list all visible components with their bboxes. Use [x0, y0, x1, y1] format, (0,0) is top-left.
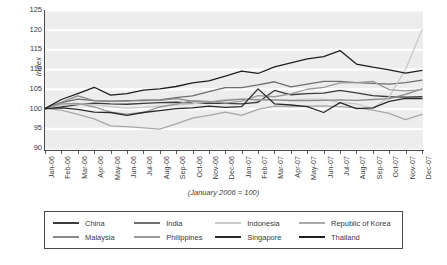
legend-swatch-icon: [53, 236, 79, 239]
x-axis-tick-mark: [422, 151, 423, 154]
x-axis-tick-mark: [193, 151, 194, 154]
x-axis-tick: Aug-07: [359, 156, 366, 179]
x-axis-tick: Sep-06: [179, 156, 186, 179]
legend-item[interactable]: Malaysia: [53, 233, 134, 242]
y-axis-tick: 110: [30, 65, 42, 73]
legend-label: Philippines: [166, 233, 202, 242]
legend-item[interactable]: Philippines: [134, 233, 215, 242]
x-axis-tick-mark: [406, 151, 407, 154]
legend-swatch-icon: [215, 222, 241, 225]
x-axis-tick: Jun-06: [130, 156, 137, 178]
x-axis-tick-mark: [61, 151, 62, 154]
legend-label: Malaysia: [85, 233, 115, 242]
index-line-chart: Index 9095100105110115120125 Jan-06Feb-0…: [0, 0, 447, 205]
x-axis-tick-mark: [356, 151, 357, 154]
x-axis-tick: May-06: [114, 156, 121, 180]
y-axis-tick: 100: [29, 105, 42, 113]
y-axis-tick: 125: [29, 6, 42, 14]
x-axis-tick-mark: [45, 151, 46, 154]
x-axis-tick: Aug-06: [163, 156, 170, 179]
legend-label: Indonesia: [247, 219, 280, 228]
x-axis-tick: Oct-07: [392, 156, 399, 178]
plot-area: [45, 10, 423, 149]
chart-screenshot: Index 9095100105110115120125 Jan-06Feb-0…: [0, 0, 447, 265]
legend-item[interactable]: Singapore: [215, 233, 299, 242]
x-axis-tick: Jan-06: [48, 156, 55, 178]
x-axis-tick: Feb-06: [64, 156, 71, 179]
x-axis-tick: Dec-07: [425, 156, 432, 179]
legend-row: ChinaIndiaIndonesiaRepublic of Korea: [53, 216, 396, 230]
x-axis-tick: Jul-07: [343, 156, 350, 176]
x-axis-tick: Mar-07: [277, 156, 284, 179]
y-axis-tick: 90: [34, 144, 42, 152]
legend-label: India: [166, 219, 182, 228]
x-axis-tick-mark: [94, 151, 95, 154]
x-axis-tick-mark: [160, 151, 161, 154]
x-axis-tick-mark: [242, 151, 243, 154]
legend-item[interactable]: China: [53, 219, 134, 228]
x-axis-tick-mark: [111, 151, 112, 154]
legend-label: Thailand: [331, 233, 360, 242]
legend-swatch-icon: [134, 236, 160, 239]
chart-caption: (January 2006 = 100): [0, 188, 447, 197]
legend-item[interactable]: Indonesia: [215, 219, 299, 228]
legend-label: China: [85, 219, 105, 228]
legend-item[interactable]: Republic of Korea: [299, 219, 396, 228]
x-axis-tick: Mar-06: [81, 156, 88, 179]
legend-swatch-icon: [299, 236, 325, 239]
legend-label: Republic of Korea: [331, 219, 391, 228]
x-axis-tick: Apr-06: [97, 156, 104, 178]
x-axis-tick: Jan-07: [245, 156, 252, 178]
legend-swatch-icon: [299, 222, 325, 225]
x-axis-tick-mark: [274, 151, 275, 154]
x-axis-tick-mark: [291, 151, 292, 154]
y-axis-tick: 95: [34, 124, 42, 132]
y-axis-tick: 115: [30, 45, 42, 53]
legend-label: Singapore: [247, 233, 281, 242]
chart-legend: ChinaIndiaIndonesiaRepublic of KoreaMala…: [44, 211, 403, 249]
x-axis-tick-mark: [258, 151, 259, 154]
y-axis-tick-labels: 9095100105110115120125: [18, 10, 42, 149]
x-axis-tick: Apr-07: [294, 156, 301, 178]
x-axis-tick: May-07: [310, 156, 317, 180]
y-axis-tick: 105: [29, 85, 42, 93]
x-axis-tick: Jul-06: [146, 156, 153, 176]
x-axis-tick-mark: [176, 151, 177, 154]
x-axis-tick-mark: [324, 151, 325, 154]
x-axis-tick: Jun-07: [327, 156, 334, 178]
x-axis-tick-mark: [127, 151, 128, 154]
series-lines: [45, 10, 423, 149]
x-axis-tick: Nov-07: [409, 156, 416, 179]
x-axis-tick-mark: [389, 151, 390, 154]
x-axis-tick-mark: [78, 151, 79, 154]
legend-row: MalaysiaPhilippinesSingaporeThailand: [53, 230, 396, 244]
x-axis-tick-mark: [225, 151, 226, 154]
x-axis-tick-mark: [209, 151, 210, 154]
x-axis-tick: Oct-06: [196, 156, 203, 178]
x-axis-tick-mark: [340, 151, 341, 154]
x-axis-tick: Dec-06: [228, 156, 235, 179]
x-axis-tick: Feb-07: [261, 156, 268, 179]
x-axis-tick: Sep-07: [376, 156, 383, 179]
y-axis-line: [44, 10, 45, 151]
legend-swatch-icon: [134, 222, 160, 225]
legend-swatch-icon: [215, 236, 241, 239]
x-axis-tick-mark: [307, 151, 308, 154]
legend-item[interactable]: India: [134, 219, 215, 228]
x-axis-tick: Nov-06: [212, 156, 219, 179]
x-axis-tick-mark: [143, 151, 144, 154]
legend-swatch-icon: [53, 222, 79, 225]
y-axis-tick: 120: [29, 26, 42, 34]
legend-item[interactable]: Thailand: [299, 233, 396, 242]
x-axis-tick-mark: [373, 151, 374, 154]
